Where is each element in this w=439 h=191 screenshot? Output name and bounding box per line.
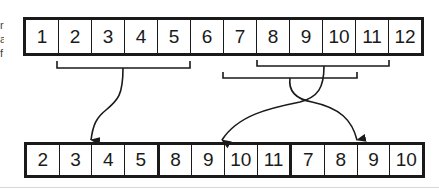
- arrow-segment-2-5: [91, 68, 123, 140]
- connectors: [0, 0, 439, 191]
- bracket-segment-7-10: [223, 72, 357, 78]
- bracket-segment-8-11: [257, 60, 389, 66]
- page-divider: [0, 187, 439, 188]
- arrow-segment-8-11: [222, 66, 324, 140]
- arrow-segment-7-10: [290, 78, 357, 140]
- bracket-segment-2-5: [57, 61, 190, 68]
